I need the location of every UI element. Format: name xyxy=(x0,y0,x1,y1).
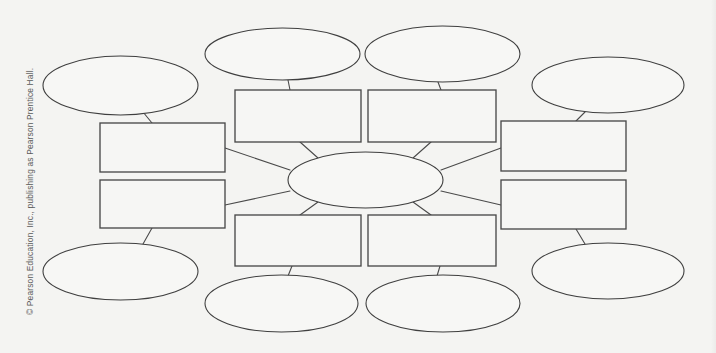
ellipse-bottom-right-corner-outline xyxy=(532,243,684,299)
rect-left-lower[interactable] xyxy=(100,180,225,228)
ellipse-bottom-center-left[interactable] xyxy=(205,275,358,332)
rect-bottom-left-outline xyxy=(235,215,361,266)
ellipse-bottom-right-corner[interactable] xyxy=(532,243,684,299)
rect-top-left-outline xyxy=(235,90,361,142)
connector-center-to-right-upper xyxy=(441,148,501,170)
connector-center-to-left-upper xyxy=(225,148,290,170)
connector-center-to-top-left xyxy=(300,142,318,158)
ellipse-top-right-corner-outline xyxy=(532,57,684,113)
connector-ellipse-bottom-left xyxy=(143,228,152,244)
connector-ellipse-bottom-center-left xyxy=(288,266,292,276)
ellipse-top-center-left-outline xyxy=(205,28,360,80)
ellipse-bottom-center-right-outline xyxy=(366,275,520,332)
connector-ellipse-bottom-right xyxy=(576,229,585,244)
connector-ellipse-top-center-left xyxy=(288,80,290,90)
ellipse-bottom-left-corner[interactable] xyxy=(43,243,198,300)
connector-ellipse-top-right xyxy=(576,112,585,121)
ellipse-top-center-right[interactable] xyxy=(365,26,520,82)
connector-center-to-top-right xyxy=(413,142,431,158)
rect-top-right[interactable] xyxy=(368,90,496,142)
ellipse-top-center-right-outline xyxy=(365,26,520,82)
rect-left-upper-outline xyxy=(100,123,225,172)
center-topic-ellipse[interactable] xyxy=(288,152,443,208)
rect-top-right-outline xyxy=(368,90,496,142)
ellipse-top-left-corner-outline xyxy=(43,56,198,115)
connector-ellipse-top-center-right xyxy=(438,82,441,90)
center-topic-ellipse-outline xyxy=(288,152,443,208)
rect-bottom-right-outline xyxy=(368,215,496,266)
rect-left-lower-outline xyxy=(100,180,225,228)
connector-center-to-left-lower xyxy=(225,191,290,205)
rect-right-upper-outline xyxy=(501,121,626,171)
ellipse-top-center-left[interactable] xyxy=(205,28,360,80)
ellipse-bottom-center-left-outline xyxy=(205,275,358,332)
rect-right-lower-outline xyxy=(501,180,626,229)
rect-right-upper[interactable] xyxy=(501,121,626,171)
center-node-layer xyxy=(288,152,443,208)
rect-bottom-right[interactable] xyxy=(368,215,496,266)
connector-center-to-bottom-right xyxy=(413,202,431,215)
ellipse-bottom-center-right[interactable] xyxy=(366,275,520,332)
concept-web-diagram xyxy=(0,0,716,353)
rect-top-left[interactable] xyxy=(235,90,361,142)
ellipse-bottom-left-corner-outline xyxy=(43,243,198,300)
ellipse-top-right-corner[interactable] xyxy=(532,57,684,113)
connector-center-to-right-lower xyxy=(441,191,501,205)
rect-bottom-left[interactable] xyxy=(235,215,361,266)
worksheet-page: © Pearson Education, Inc., publishing as… xyxy=(0,0,716,353)
rect-left-upper[interactable] xyxy=(100,123,225,172)
connector-center-to-bottom-left xyxy=(300,202,318,215)
ellipse-top-left-corner[interactable] xyxy=(43,56,198,115)
rect-right-lower[interactable] xyxy=(501,180,626,229)
